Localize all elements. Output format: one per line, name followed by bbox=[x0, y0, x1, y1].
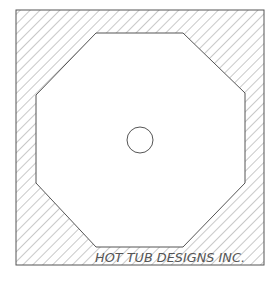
company-label: HOT TUB DESIGNS INC. bbox=[95, 251, 245, 265]
hot-tub-plan-drawing: HOT TUB DESIGNS INC. bbox=[0, 0, 279, 287]
octagon-tub-outline bbox=[36, 33, 245, 247]
